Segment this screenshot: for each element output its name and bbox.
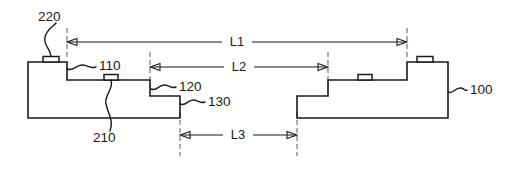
- leader-line-130: [180, 100, 205, 105]
- patent-figure: L1 L2 L3: [0, 0, 509, 169]
- terrace-pad-right-lower: [358, 75, 372, 81]
- dimension-l1: L1: [67, 34, 407, 49]
- leader-line-100: [448, 88, 467, 93]
- leader-line-210: [106, 80, 112, 131]
- leader-line-110: [67, 65, 96, 70]
- reference-numeral-210: 210: [93, 130, 116, 145]
- leader-line-220: [45, 23, 56, 56]
- reference-numeral-100: 100: [470, 82, 493, 97]
- bump-pad-220: [43, 57, 59, 63]
- figure-canvas: L1 L2 L3: [0, 0, 509, 169]
- dimension-l2: L2: [150, 59, 328, 74]
- dimension-l3-label: L3: [231, 127, 245, 142]
- leader-line-120: [151, 85, 176, 90]
- dimension-l1-label: L1: [230, 34, 244, 49]
- dimension-l2-label: L2: [232, 59, 246, 74]
- reference-numeral-130: 130: [208, 94, 231, 109]
- bump-pad-right-upper: [417, 57, 433, 63]
- dimension-l3: L3: [180, 127, 297, 142]
- terrace-pad-210: [104, 75, 118, 81]
- reference-numeral-220: 220: [38, 9, 61, 24]
- reference-numeral-120: 120: [179, 79, 202, 94]
- reference-numeral-110: 110: [99, 58, 121, 73]
